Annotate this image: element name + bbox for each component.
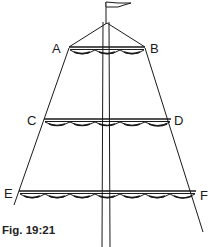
diagram-canvas: A B C D E F Fig. 19:21 xyxy=(0,0,213,247)
mast xyxy=(102,22,110,247)
flag-icon xyxy=(106,2,131,24)
top-stays xyxy=(69,23,145,47)
platform-ef xyxy=(19,191,196,198)
label-c: C xyxy=(27,114,36,127)
label-b: B xyxy=(150,42,159,55)
label-e: E xyxy=(4,187,13,200)
platform-cd xyxy=(44,119,171,126)
outer-stays xyxy=(14,48,203,232)
figure-caption: Fig. 19:21 xyxy=(2,224,55,236)
platform-ab xyxy=(69,47,145,54)
label-a: A xyxy=(52,42,61,55)
label-d: D xyxy=(174,114,183,127)
label-f: F xyxy=(200,189,208,202)
